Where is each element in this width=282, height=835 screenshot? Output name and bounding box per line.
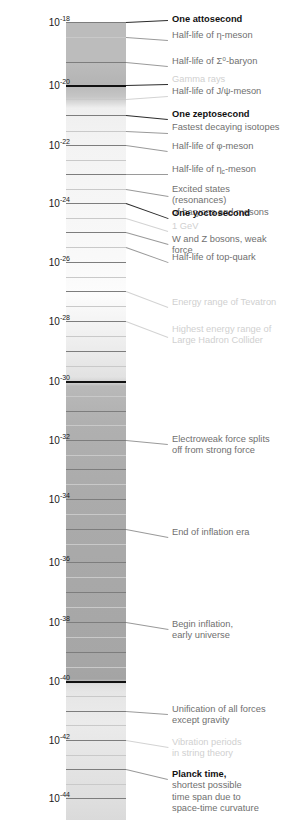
tick-mark <box>66 469 126 470</box>
tick-mark <box>66 277 126 278</box>
tick-mark <box>66 740 126 741</box>
leader-line <box>126 321 168 338</box>
leader-line <box>126 84 168 86</box>
tick-mark <box>66 798 126 799</box>
annotation-label: Half-life of φ-meson <box>172 141 282 152</box>
annotation-label: One attosecond <box>172 14 282 25</box>
tick-mark <box>66 622 126 623</box>
tick-mark <box>66 174 126 175</box>
tick-mark <box>66 351 126 352</box>
tick-mark <box>66 366 126 367</box>
annotation-label: Fastest decaying isotopes <box>172 122 282 133</box>
tick-mark <box>66 160 126 161</box>
timescale-diagram: 10-1810-2010-2210-2410-2610-2810-3010-32… <box>0 0 282 835</box>
tick-mark <box>66 381 126 383</box>
leader-line <box>126 115 168 120</box>
leader-line <box>126 247 168 263</box>
tick-mark <box>66 711 126 712</box>
leader-line <box>126 622 168 630</box>
annotation-label: Gamma rays <box>172 74 282 85</box>
tick-mark <box>66 291 126 292</box>
annotation-label: Highest energy range of Large Hadron Col… <box>172 324 282 347</box>
annotation-label: One yoctosecond <box>172 208 282 219</box>
leader-line <box>126 769 168 780</box>
leader-line <box>126 174 168 175</box>
tick-mark <box>66 725 126 726</box>
leader-line <box>126 440 168 445</box>
tick-mark <box>66 667 126 668</box>
tick-mark <box>66 262 126 263</box>
annotation-label: Begin inflation, early universe <box>172 619 282 642</box>
leader-line <box>126 203 168 219</box>
annotation-label: Half-life of ηc-meson <box>172 164 282 175</box>
leader-line <box>126 20 168 23</box>
tick-mark <box>66 425 126 426</box>
tick-mark <box>66 440 126 441</box>
tick-mark <box>66 696 126 697</box>
annotation-label: Planck time, shortest possible time span… <box>172 769 282 815</box>
tick-mark <box>66 769 126 770</box>
leader-line <box>126 291 168 308</box>
tick-mark <box>66 755 126 756</box>
tick-mark <box>66 232 126 233</box>
tick-mark <box>66 499 126 500</box>
tick-mark <box>66 203 126 204</box>
tick-mark <box>66 592 126 593</box>
annotation-label: Half-life of top-quark <box>172 252 282 263</box>
leader-line <box>126 131 168 134</box>
leader-line <box>126 711 168 715</box>
tick-mark <box>66 411 126 412</box>
tick-mark <box>66 681 126 683</box>
tick-mark <box>66 784 126 785</box>
tick-mark <box>66 484 126 485</box>
tick-mark <box>66 396 126 397</box>
tick-mark <box>66 455 126 456</box>
tick-mark <box>66 189 126 190</box>
tick-mark <box>66 607 126 608</box>
tick-mark <box>66 99 126 100</box>
annotation-label: Half-life of J/ψ-meson <box>172 86 282 97</box>
annotation-label: End of inflation era <box>172 527 282 538</box>
tick-mark <box>66 131 126 132</box>
leader-line <box>126 62 168 67</box>
tick-mark <box>66 22 126 23</box>
tick-mark <box>66 115 126 116</box>
annotation-label: Half-life of Σ⁰-baryon <box>172 56 282 67</box>
annotation-label: Half-life of η-meson <box>172 30 282 41</box>
tick-mark <box>66 637 126 638</box>
tick-mark <box>66 145 126 146</box>
tick-mark <box>66 306 126 307</box>
tick-mark <box>66 562 126 563</box>
tick-mark <box>66 37 126 38</box>
tick-mark <box>66 544 126 545</box>
leader-line <box>126 218 168 232</box>
tick-mark <box>66 218 126 219</box>
annotation-label: Unification of all forces except gravity <box>172 704 282 727</box>
leader-line <box>126 145 168 152</box>
annotation-label: One zeptosecond <box>172 109 282 120</box>
leader-line <box>126 529 168 538</box>
tick-mark <box>66 85 126 87</box>
leader-line <box>126 740 168 748</box>
tick-mark <box>66 321 126 322</box>
annotation-label: Vibration periods in string theory <box>172 737 282 760</box>
tick-mark <box>66 514 126 515</box>
tick-mark <box>66 529 126 530</box>
tick-mark <box>66 247 126 248</box>
leader-line <box>126 37 168 41</box>
leader-line <box>126 232 168 245</box>
tick-mark <box>66 577 126 578</box>
tick-mark <box>66 62 126 63</box>
annotation-label: Energy range of Tevatron <box>172 297 282 308</box>
annotation-label: Electroweak force splits off from strong… <box>172 434 282 457</box>
tick-mark <box>66 652 126 653</box>
logarithmic-gradient-bar <box>66 22 126 820</box>
tick-mark <box>66 336 126 337</box>
leader-line <box>126 189 168 197</box>
annotation-label: 1 GeV <box>172 221 282 232</box>
leader-line <box>126 96 168 100</box>
annotation-label-strong: Planck time, <box>172 769 226 779</box>
